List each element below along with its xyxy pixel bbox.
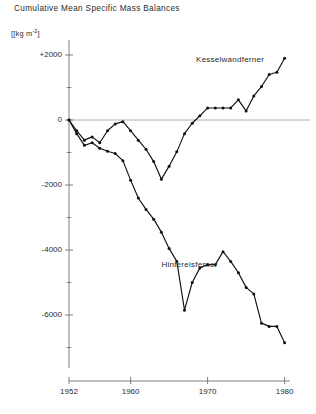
series-data-point bbox=[121, 159, 124, 162]
series-data-point bbox=[237, 271, 240, 274]
series-data-point bbox=[252, 292, 255, 295]
series-data-point bbox=[129, 129, 132, 132]
series-data-point bbox=[91, 135, 94, 138]
series-data-point bbox=[160, 231, 163, 234]
y-axis-tick-label: -4000 bbox=[0, 245, 62, 254]
series-data-point bbox=[129, 179, 132, 182]
chart-figure: Cumulative Mean Specific Mass Balances [… bbox=[0, 0, 316, 414]
series-data-point bbox=[83, 144, 86, 147]
series-data-point bbox=[222, 250, 225, 253]
chart-plot-area bbox=[0, 0, 316, 414]
series-data-point bbox=[68, 119, 71, 122]
y-axis-tick-label: +2000 bbox=[0, 50, 62, 59]
series-data-point bbox=[229, 260, 232, 263]
series-data-point bbox=[106, 129, 109, 132]
series-data-point bbox=[252, 94, 255, 97]
series-data-point bbox=[106, 150, 109, 153]
series-data-point bbox=[137, 139, 140, 142]
series-data-point bbox=[283, 57, 286, 60]
series-data-point bbox=[83, 139, 86, 142]
y-axis-tick-label: -6000 bbox=[0, 310, 62, 319]
x-axis-tick-label: 1960 bbox=[111, 387, 151, 396]
series-data-point bbox=[191, 281, 194, 284]
series-data-point bbox=[91, 141, 94, 144]
series-data-point bbox=[75, 132, 78, 135]
series-data-point bbox=[152, 160, 155, 163]
series-data-point bbox=[191, 122, 194, 125]
series-data-point bbox=[98, 141, 101, 144]
series-data-point bbox=[245, 109, 248, 112]
series-data-point bbox=[114, 122, 117, 125]
series-line bbox=[69, 58, 285, 179]
series-data-point bbox=[175, 150, 178, 153]
series-data-point bbox=[268, 325, 271, 328]
series-data-point bbox=[168, 165, 171, 168]
series-data-point bbox=[160, 178, 163, 181]
x-axis-tick-label: 1980 bbox=[265, 387, 305, 396]
series-data-point bbox=[183, 132, 186, 135]
series-data-point bbox=[206, 106, 209, 109]
series-data-point bbox=[283, 341, 286, 344]
series-data-point bbox=[260, 322, 263, 325]
series-data-point bbox=[245, 286, 248, 289]
series-data-point bbox=[268, 73, 271, 76]
series-label-hintereisferner: Hintereisferner bbox=[161, 260, 217, 269]
series-data-point bbox=[275, 325, 278, 328]
series-data-point bbox=[152, 218, 155, 221]
series-line bbox=[69, 120, 285, 343]
series-data-point bbox=[222, 106, 225, 109]
series-data-point bbox=[237, 98, 240, 101]
series-data-point bbox=[114, 152, 117, 155]
series-label-kesselwandferner: Kesselwandferner bbox=[196, 55, 264, 64]
x-axis-tick-label: 1970 bbox=[188, 387, 228, 396]
series-data-point bbox=[121, 120, 124, 123]
series-data-point bbox=[145, 148, 148, 151]
series-data-point bbox=[168, 247, 171, 250]
series-data-point bbox=[260, 85, 263, 88]
y-axis-tick-label: -2000 bbox=[0, 180, 62, 189]
series-data-point bbox=[275, 71, 278, 74]
series-data-point bbox=[229, 106, 232, 109]
series-data-point bbox=[145, 208, 148, 211]
series-data-point bbox=[214, 106, 217, 109]
y-axis-tick-label: 0 bbox=[0, 115, 62, 124]
x-axis-tick-label: 1952 bbox=[49, 387, 89, 396]
series-data-point bbox=[198, 114, 201, 117]
series-data-point bbox=[183, 309, 186, 312]
series-data-point bbox=[98, 147, 101, 150]
series-data-point bbox=[137, 197, 140, 200]
